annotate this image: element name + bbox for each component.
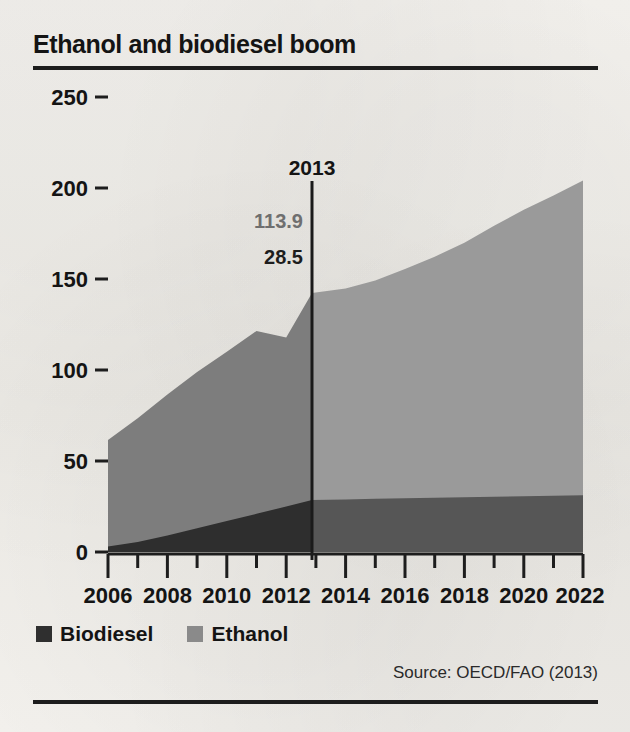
- x-tick-2016: 2016: [381, 583, 430, 608]
- annotation-2013: 2013 113.9 28.5: [254, 156, 335, 268]
- x-tick-2012: 2012: [262, 583, 311, 608]
- annotation-biodiesel-value: 28.5: [264, 246, 303, 268]
- x-tick-2008: 2008: [143, 583, 192, 608]
- y-axis-tick-labels: 250 200 150 100 50 0: [51, 85, 88, 565]
- y-tick-150: 150: [51, 267, 88, 292]
- x-axis-major-ticks: [108, 554, 583, 578]
- biodiesel-area-projected: [312, 495, 583, 552]
- x-tick-2014: 2014: [321, 583, 371, 608]
- x-tick-2006: 2006: [84, 583, 133, 608]
- x-tick-2020: 2020: [499, 583, 548, 608]
- y-axis-ticks: [95, 97, 108, 552]
- annotation-ethanol-value: 113.9: [254, 210, 303, 232]
- y-tick-0: 0: [76, 540, 88, 565]
- y-tick-50: 50: [64, 449, 88, 474]
- footer-divider-rule: [33, 700, 598, 704]
- square-swatch-icon: [36, 626, 52, 642]
- square-swatch-icon: [187, 626, 203, 642]
- legend-item-ethanol[interactable]: Ethanol: [187, 622, 288, 646]
- y-tick-200: 200: [51, 176, 88, 201]
- y-tick-100: 100: [51, 358, 88, 383]
- x-tick-2018: 2018: [440, 583, 489, 608]
- y-tick-250: 250: [51, 85, 88, 110]
- legend-item-biodiesel[interactable]: Biodiesel: [36, 622, 153, 646]
- x-axis-tick-labels: 2006 2008 2010 2012 2014 2016 2018 2020 …: [84, 583, 605, 608]
- x-tick-2010: 2010: [202, 583, 251, 608]
- legend-label-ethanol: Ethanol: [211, 622, 288, 646]
- legend-label-biodiesel: Biodiesel: [60, 622, 153, 646]
- chart-legend: Biodiesel Ethanol: [36, 622, 288, 646]
- source-note: Source: OECD/FAO (2013): [393, 663, 598, 683]
- chart-figure: Ethanol and biodiesel boom 250 200 150 1…: [0, 0, 630, 732]
- x-tick-2022: 2022: [556, 583, 605, 608]
- annotation-year-label: 2013: [289, 156, 336, 179]
